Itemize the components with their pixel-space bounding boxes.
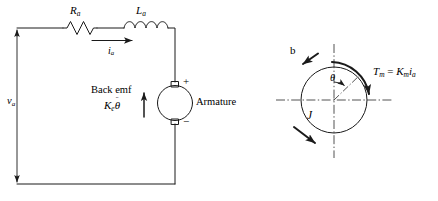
current-label: ia	[108, 46, 114, 57]
resistor-symbol	[63, 22, 97, 35]
inertia-label: J	[307, 110, 312, 122]
resistor-label: Ra	[70, 5, 80, 17]
rotational-diagram	[276, 44, 392, 158]
polarity-minus: −	[183, 116, 189, 127]
wire-to-motor-top	[168, 28, 175, 82]
polarity-plus: +	[183, 76, 189, 87]
back-emf-expression: Ke¨θ	[104, 100, 120, 112]
inductor-label: La	[136, 5, 146, 17]
theta-arc	[334, 82, 345, 86]
source-voltage-label: va	[7, 96, 15, 108]
inertia-arrow	[294, 127, 315, 143]
damping-label: b	[290, 45, 296, 56]
motor-diagram: Ra La ia va Back emf Ke¨θ Armature + − b…	[0, 0, 438, 201]
torque-equation: Tm = Kmia	[373, 66, 416, 78]
axis-theta-radius	[334, 74, 361, 100]
armature-label: Armature	[196, 97, 236, 108]
theta-double-dot-marks: ¨	[116, 96, 119, 104]
angle-label: θ	[330, 73, 335, 84]
inductor-symbol	[124, 22, 168, 28]
back-emf-label: Back emf	[91, 85, 132, 96]
damping-arrow	[303, 54, 318, 65]
